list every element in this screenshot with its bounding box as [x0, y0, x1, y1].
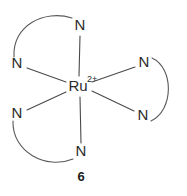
structure-drawing: N N N N N N Ru 2+ 6: [0, 0, 187, 196]
bond-ru-n-lower-right: [92, 91, 134, 111]
atom-label-n-bottom: N: [76, 142, 87, 159]
atom-label-n-upper-right: N: [139, 53, 150, 70]
bond-ru-n-top: [79, 36, 80, 76]
chemical-structure-figure: N N N N N N Ru 2+ 6: [0, 0, 187, 196]
atom-label-n-top: N: [75, 16, 86, 33]
bond-ru-n-upper-right: [92, 67, 135, 82]
bond-ru-n-upper-left: [27, 68, 66, 82]
arc-bottom-left: [13, 121, 73, 162]
atom-label-n-lower-left: N: [12, 104, 23, 121]
atom-label-n-lower-right: N: [138, 106, 149, 123]
bond-ru-n-lower-left: [27, 92, 66, 110]
arc-right: [151, 58, 168, 121]
bond-ru-n-bottom: [80, 97, 81, 143]
atom-label-n-upper-left: N: [12, 54, 23, 71]
metal-charge-superscript: 2+: [87, 74, 97, 84]
arc-top-left: [14, 16, 72, 57]
compound-number-label: 6: [77, 169, 84, 184]
metal-symbol: Ru: [68, 77, 87, 94]
chelate-arc-group: [13, 16, 168, 163]
